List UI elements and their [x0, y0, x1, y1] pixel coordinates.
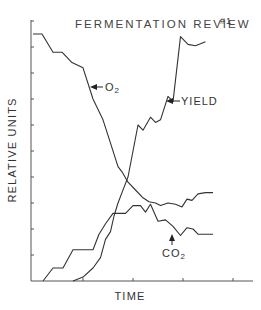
series-line-co2	[43, 204, 213, 281]
series-group	[33, 34, 213, 281]
y-axis-label: RELATIVE UNITS	[6, 97, 18, 202]
fermentation-chart: FERMENTATION REVIEW #1 RELATIVE UNITS TI…	[0, 0, 261, 310]
annotation-co2: CO2	[162, 234, 186, 261]
co2-label: CO2	[162, 247, 186, 261]
yield-label: YIELD	[181, 95, 218, 107]
chart-title-suffix: #1	[220, 16, 232, 26]
series-line-yield	[73, 37, 206, 281]
x-axis-label: TIME	[114, 290, 145, 302]
series-line-o2	[33, 34, 213, 207]
axes	[31, 20, 253, 281]
annotation-o2: O2	[90, 81, 120, 95]
o2-label: O2	[105, 81, 120, 95]
arrow-icon	[90, 84, 97, 90]
arrow-icon	[169, 234, 175, 241]
